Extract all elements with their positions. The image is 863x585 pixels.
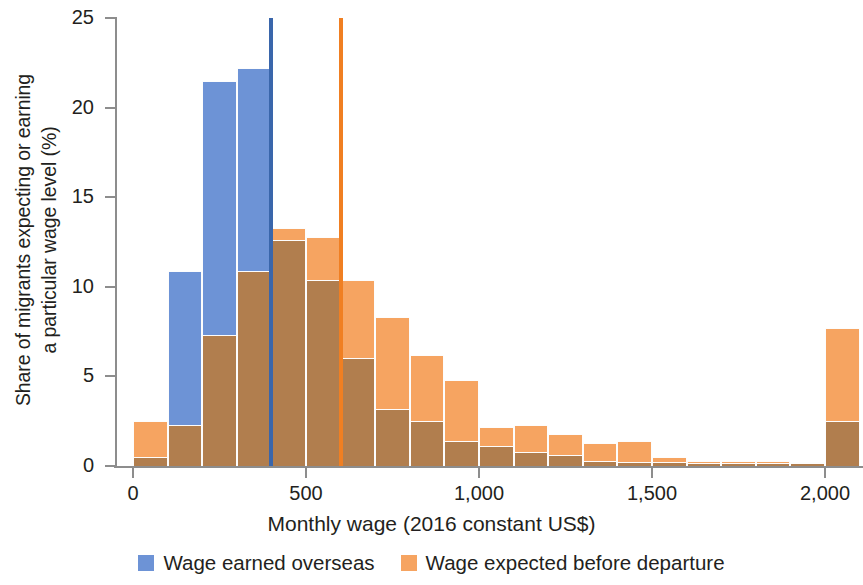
x-axis-title: Monthly wage (2016 constant US$) [0, 512, 863, 536]
y-axis-tick-label: 5 [58, 365, 94, 385]
y-axis-tick [105, 375, 115, 377]
histogram-bar-overlap [790, 463, 825, 466]
histogram-bar-overlap [202, 335, 237, 466]
x-axis-tick-label: 1,000 [454, 482, 504, 504]
plot-area [115, 18, 863, 466]
y-axis-title: Share of migrants expecting or earning a… [0, 0, 72, 480]
histogram-bar-overlap [341, 358, 376, 466]
histogram-bar-overlap [271, 240, 306, 466]
legend-label: Wage expected before departure [426, 551, 725, 575]
histogram-bar-overlap [617, 462, 652, 466]
x-axis-tick [305, 468, 307, 478]
histogram-bar-overlap [237, 271, 272, 466]
y-axis-tick [105, 196, 115, 198]
y-axis-tick [105, 17, 115, 19]
legend-item[interactable]: Wage earned overseas [138, 551, 374, 575]
histogram-bar-overlap [721, 463, 756, 466]
histogram-bar-overlap [825, 421, 860, 466]
histogram-bar-overlap [756, 463, 791, 466]
x-axis-tick-label: 500 [289, 482, 322, 504]
histogram-bar-overlap [133, 457, 168, 466]
reference-line [339, 18, 343, 466]
histogram-bar-overlap [306, 280, 341, 466]
y-axis-tick [105, 286, 115, 288]
histogram-bar-overlap [548, 455, 583, 466]
histogram-bar-overlap [479, 446, 514, 466]
y-axis-tick-label: 0 [58, 455, 94, 475]
y-axis-title-line-1: Share of migrants expecting or earning [12, 74, 34, 406]
y-axis-tick [105, 107, 115, 109]
histogram-bar-overlap [652, 462, 687, 466]
y-axis-tick [105, 465, 115, 467]
x-axis-tick-label: 0 [127, 482, 138, 504]
y-axis-tick-label: 20 [58, 97, 94, 117]
legend-label: Wage earned overseas [163, 551, 374, 575]
reference-line [269, 18, 273, 466]
y-axis-title-line-2: a particular wage level (%) [36, 74, 62, 406]
x-axis-tick-label: 2,000 [800, 482, 850, 504]
x-axis-line [114, 466, 863, 468]
histogram-bar-overlap [514, 452, 549, 466]
y-axis-tick-label: 10 [58, 276, 94, 296]
histogram-bar-overlap [168, 425, 203, 466]
chart-legend: Wage earned overseasWage expected before… [0, 551, 863, 575]
histogram-bar-overlap [444, 441, 479, 466]
x-axis-tick [132, 468, 134, 478]
y-axis-tick-label: 25 [58, 7, 94, 27]
chart-figure: Share of migrants expecting or earning a… [0, 0, 863, 585]
histogram-bar-overlap [687, 463, 722, 466]
histogram-bar-overlap [583, 461, 618, 466]
legend-swatch-icon [401, 555, 417, 571]
x-axis-tick [478, 468, 480, 478]
histogram-bar-overlap [410, 421, 445, 466]
legend-item[interactable]: Wage expected before departure [401, 551, 725, 575]
y-axis-tick-label: 15 [58, 186, 94, 206]
histogram-bar-overlap [375, 409, 410, 466]
x-axis-tick [651, 468, 653, 478]
x-axis-tick [824, 468, 826, 478]
legend-swatch-icon [138, 555, 154, 571]
x-axis-tick-label: 1,500 [627, 482, 677, 504]
